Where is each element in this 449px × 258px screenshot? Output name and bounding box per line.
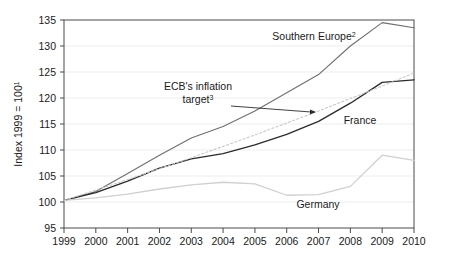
y-tick-label: 120: [38, 92, 56, 104]
x-tick-label: 2008: [339, 235, 363, 247]
y-tick-label: 110: [39, 144, 56, 156]
x-tick-label: 2009: [371, 235, 395, 247]
annotation-label: target3: [183, 93, 214, 105]
y-tick-label: 100: [38, 196, 56, 208]
x-tick-label: 2000: [84, 235, 108, 247]
chart-canvas: 95100105110115120125130135 1999200020012…: [0, 0, 449, 258]
chart-background: [0, 0, 449, 258]
x-tick-label: 2006: [275, 235, 299, 247]
x-tick-label: 2001: [116, 235, 140, 247]
y-tick-label: 95: [44, 222, 56, 234]
inflation-index-chart: 95100105110115120125130135 1999200020012…: [0, 0, 449, 258]
x-tick-label: 2003: [180, 235, 204, 247]
y-tick-label: 125: [38, 66, 56, 78]
annotation-label: Germany: [296, 198, 340, 210]
y-axis-title: Index 1999 = 1001: [12, 81, 24, 166]
y-tick-label: 105: [38, 170, 56, 182]
x-tick-label: 2004: [211, 235, 235, 247]
x-tick-label: 2007: [307, 235, 331, 247]
x-tick-label: 2002: [148, 235, 172, 247]
y-tick-label: 115: [39, 118, 56, 130]
y-tick-label: 130: [38, 40, 56, 52]
y-tick-label: 135: [38, 14, 56, 26]
annotation-label: France: [344, 114, 377, 126]
x-tick-label: 2005: [243, 235, 267, 247]
annotation-label: Southern Europe2: [272, 30, 355, 42]
x-tick-label: 2010: [402, 235, 426, 247]
x-tick-label: 1999: [52, 235, 76, 247]
annotation-label: ECB's inflation: [164, 80, 232, 92]
y-axis-title-text: Index 1999 = 1001: [12, 81, 24, 166]
